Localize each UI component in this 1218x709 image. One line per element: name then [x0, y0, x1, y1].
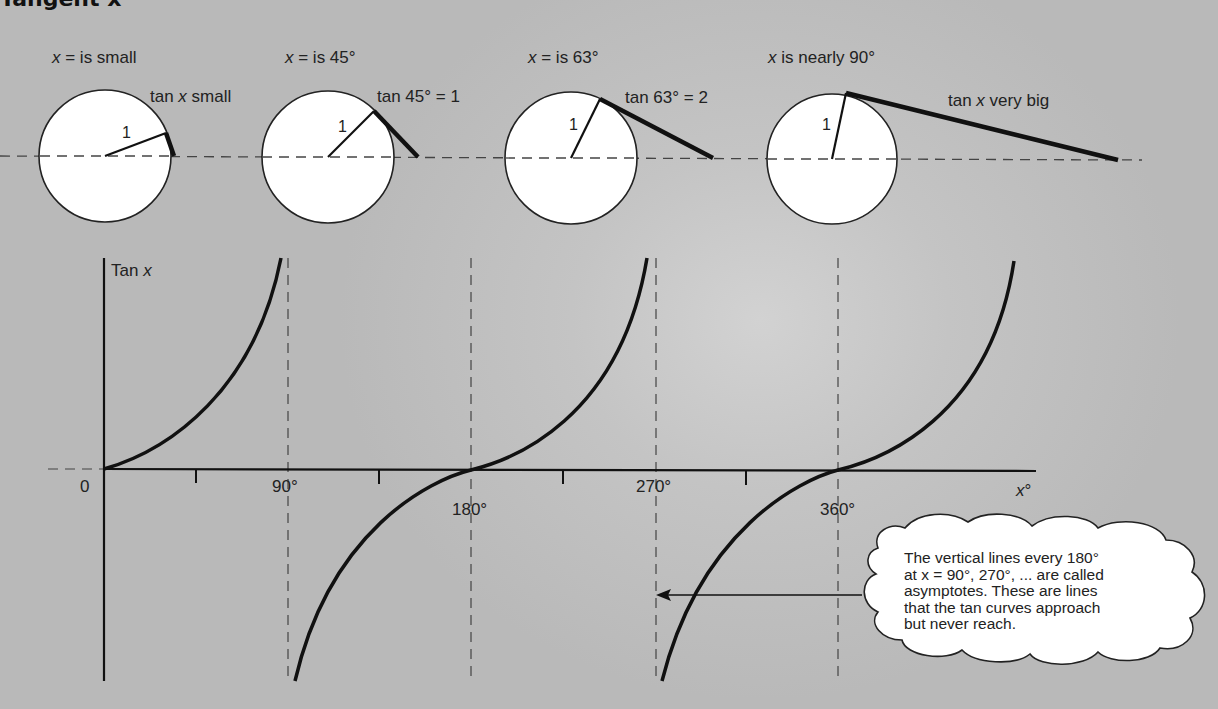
- circle-x-63: 1 x = is 63° tan 63° = 2: [505, 48, 713, 224]
- callout-text: The vertical lines every 180° at x = 90°…: [904, 550, 1204, 633]
- caption-x-small: x = is small: [51, 48, 137, 67]
- callout-line: at x = 90°, 270°, ... are called: [904, 567, 1204, 584]
- caption-x-45: x = is 45°: [284, 48, 356, 67]
- radius-label: 1: [569, 116, 578, 133]
- caption-x-nearly-90: x is nearly 90°: [767, 48, 875, 67]
- radius-label: 1: [122, 124, 131, 141]
- tan-curve-branch-1: [104, 258, 281, 469]
- callout-line: asymptotes. These are lines: [904, 583, 1204, 600]
- y-axis-label: Tan x: [111, 261, 152, 280]
- tan-label-63: tan 63° = 2: [625, 88, 708, 107]
- circle-x-nearly-90: 1 x is nearly 90° tan x very big: [767, 48, 1118, 224]
- x-axis: [104, 469, 1036, 471]
- callout-line: that the tan curves approach: [904, 600, 1204, 617]
- circle-x-small: 1 x = is small tan x small: [0, 48, 231, 222]
- origin-label: 0: [80, 477, 89, 496]
- x-axis-label: x°: [1015, 481, 1031, 500]
- callout-line: but never reach.: [904, 616, 1204, 633]
- tick-label-90: 90°: [272, 477, 298, 496]
- callout-line: The vertical lines every 180°: [904, 550, 1204, 567]
- tick-label-270: 270°: [636, 477, 671, 496]
- caption-x-63: x = is 63°: [527, 48, 599, 67]
- tan-label-45: tan 45° = 1: [377, 87, 460, 106]
- tan-label-small: tan x small: [150, 87, 231, 106]
- tick-label-360: 360°: [820, 500, 855, 519]
- callout-arrow: [656, 589, 862, 601]
- tan-label-very-big: tan x very big: [948, 91, 1049, 110]
- tick-label-180: 180°: [452, 500, 487, 519]
- circle-x-45: 1 x = is 45° tan 45° = 1: [262, 48, 460, 223]
- radius-label: 1: [822, 116, 831, 133]
- radius-label: 1: [338, 118, 347, 135]
